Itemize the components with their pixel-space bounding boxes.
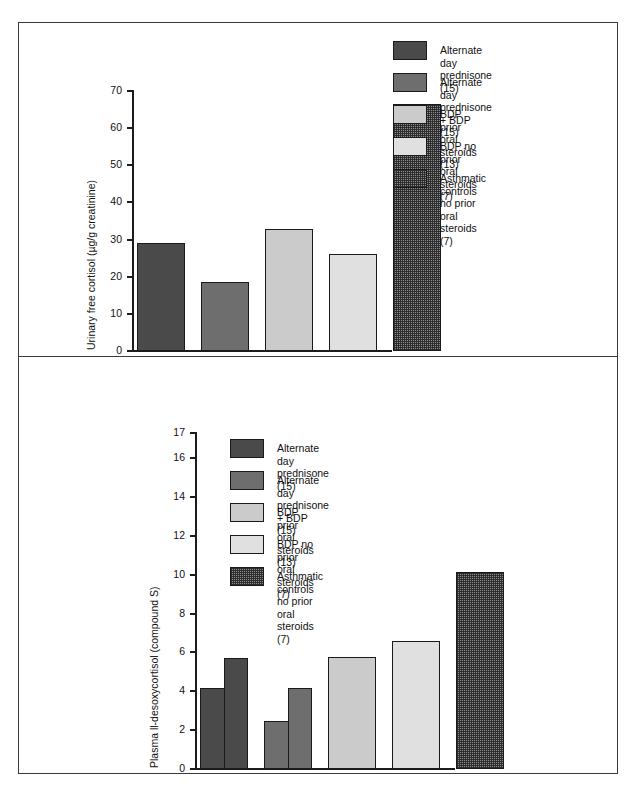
y-axis-tick xyxy=(127,276,133,278)
legend-swatch-icon xyxy=(230,567,264,586)
legend-swatch-icon xyxy=(230,503,264,522)
y-axis-tick xyxy=(127,350,133,352)
y-axis-tick xyxy=(190,432,196,434)
y-axis-tick-label: 10 xyxy=(151,569,185,580)
y-axis-tick xyxy=(190,496,196,498)
y-axis-tick-label: 50 xyxy=(88,159,122,170)
legend-label: Asthmatic controls no prior oral steroid… xyxy=(277,567,323,645)
legend-swatch-icon xyxy=(393,169,427,188)
bar xyxy=(201,282,249,351)
y-axis-tick xyxy=(127,127,133,129)
y-axis-tick xyxy=(190,690,196,692)
legend-swatch-icon xyxy=(230,535,264,554)
y-axis-tick xyxy=(127,90,133,92)
y-axis-title-bottom: Plasma ll-desoxycortisol (compound S) xyxy=(148,587,160,768)
chart-panel-urinary-free-cortisol: 010203040506070 Urinary free cortisol (µ… xyxy=(19,23,617,356)
y-axis-tick xyxy=(190,613,196,615)
y-axis-line xyxy=(132,90,134,351)
bar xyxy=(224,658,248,769)
figure-frame: 010203040506070 Urinary free cortisol (µ… xyxy=(18,22,618,774)
y-axis-tick xyxy=(190,535,196,537)
bar xyxy=(137,243,185,351)
legend-swatch-icon xyxy=(393,137,427,156)
bar xyxy=(456,572,504,769)
y-axis-tick-label: 12 xyxy=(151,530,185,541)
y-axis-tick-label: 16 xyxy=(151,452,185,463)
legend-swatch-icon xyxy=(230,439,264,458)
legend-item: Asthmatic controls no prior oral steroid… xyxy=(230,567,323,645)
legend-item: Asthmatic controls no prior oral steroid… xyxy=(393,169,486,247)
y-axis-tick xyxy=(127,239,133,241)
legend-swatch-icon xyxy=(393,41,427,60)
y-axis-tick xyxy=(190,457,196,459)
y-axis-tick xyxy=(127,164,133,166)
y-axis-tick-label: 60 xyxy=(88,122,122,133)
y-axis-tick xyxy=(190,729,196,731)
bar xyxy=(392,641,440,769)
y-axis-line xyxy=(195,432,197,769)
bar xyxy=(328,657,376,769)
bar xyxy=(265,229,313,351)
y-axis-tick xyxy=(190,574,196,576)
bar xyxy=(200,688,225,769)
y-axis-tick-label: 70 xyxy=(88,85,122,96)
chart-panel-plasma-desoxycortisol: 024681012141617 Plasma ll-desoxycortisol… xyxy=(19,357,617,774)
bar xyxy=(288,688,312,769)
y-axis-tick-label: 17 xyxy=(151,427,185,438)
legend-swatch-icon xyxy=(393,73,427,92)
y-axis-title-top: Urinary free cortisol (µg/g creatinine) xyxy=(85,180,97,350)
y-axis-tick xyxy=(127,201,133,203)
y-axis-tick xyxy=(190,651,196,653)
bar xyxy=(264,721,289,769)
y-axis-tick xyxy=(127,313,133,315)
legend-label: Asthmatic controls no prior oral steroid… xyxy=(440,169,486,247)
y-axis-tick-label: 14 xyxy=(151,491,185,502)
legend-swatch-icon xyxy=(393,105,427,124)
legend-swatch-icon xyxy=(230,471,264,490)
bar xyxy=(329,254,377,351)
y-axis-tick xyxy=(190,768,196,770)
